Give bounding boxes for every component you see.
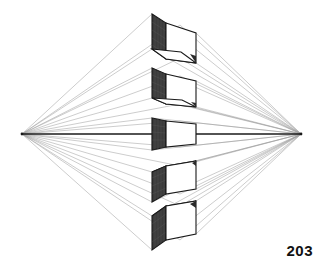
box-horizon xyxy=(152,118,196,150)
two-point-perspective-diagram xyxy=(0,0,323,268)
page-number: 203 xyxy=(286,243,313,258)
box-bottom-front-face xyxy=(166,201,196,240)
perspective-figure-container: 203 xyxy=(0,0,323,268)
box-upper xyxy=(152,68,196,107)
box-horizon-front-face xyxy=(166,121,196,147)
box-top xyxy=(152,14,196,63)
box-bottom xyxy=(152,201,196,250)
left-vanishing-point-marker xyxy=(21,133,24,136)
box-lower xyxy=(152,161,196,202)
right-vanishing-point-marker xyxy=(300,133,303,136)
box-lower-front-face xyxy=(166,161,196,194)
